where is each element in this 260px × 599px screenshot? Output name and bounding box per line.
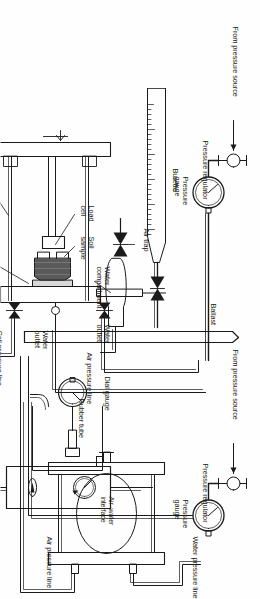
label-water-outlet-upper: Water outlet — [93, 324, 110, 343]
label-soil-sample: Soil sample — [77, 236, 94, 259]
from-pressure-source-arrow-top — [230, 120, 236, 150]
load-cell-symbol — [42, 236, 64, 248]
label-rubber-tube: Rubber tube — [76, 398, 84, 438]
label-air-pressure-line-lower: Air pressure line — [44, 536, 52, 588]
water-outlet-valve-lower-symbol — [51, 302, 59, 330]
label-air-pressure-line-upper: Air pressure line — [84, 352, 92, 404]
high-air-entry-ceramic-disc-symbol — [0, 280, 100, 302]
label-load-cell: Load cell — [77, 205, 94, 221]
pressure-regulator-top-symbol — [218, 154, 246, 167]
label-dial-gauge: Dial gauge — [102, 376, 110, 410]
label-water-pressure-line: Water pressure line — [190, 536, 198, 598]
label-from-pressure-source-top: From pressure source — [230, 26, 238, 96]
label-pressure-regulator-top: Pressure regulator — [200, 140, 208, 199]
pressure-regulator-bottom-symbol — [218, 477, 246, 490]
schematic-rotated-group: From pressure source Pressure regulator … — [0, 0, 260, 599]
figure-canvas: From pressure source Pressure regulator … — [0, 0, 260, 599]
label-pressure-gauge-bottom: Pressure gauge — [171, 499, 188, 528]
soil-sample-symbol — [34, 258, 70, 280]
label-ballast: Ballast — [208, 303, 216, 324]
label-pressure-regulator-bottom: Pressure regulator — [200, 463, 208, 522]
label-from-pressure-source-bottom: From pressure source — [230, 349, 238, 419]
label-water-outlet-lower: Water outlet — [31, 330, 48, 349]
label-burette: Burette — [170, 168, 178, 191]
label-air-trap: Air trap — [141, 228, 149, 251]
schematic-drawing — [0, 0, 260, 599]
burette-valve-symbol — [150, 262, 164, 327]
label-water-compartment: Water compartment — [93, 266, 110, 308]
cell-pressure-valve-symbol — [6, 302, 22, 318]
from-pressure-source-arrow-bottom — [230, 443, 236, 473]
label-air-water-interface: Air–water interface — [98, 496, 114, 525]
label-cell-pressure-line: Cell pressure line — [0, 330, 2, 385]
